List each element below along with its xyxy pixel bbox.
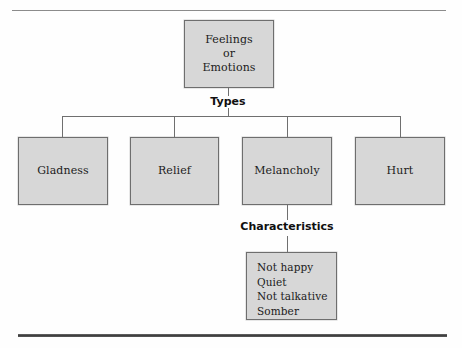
root-line-2: or <box>223 47 235 61</box>
edge-label-types: Types <box>178 96 278 108</box>
characteristic-item-2: Quiet <box>257 275 336 290</box>
characteristic-item-1: Not happy <box>257 260 336 275</box>
hierarchy-diagram: Feelings or Emotions Types Gladness Reli… <box>0 0 462 348</box>
node-relief: Relief <box>130 137 219 205</box>
characteristic-item-3: Not talkative <box>257 289 336 304</box>
node-melancholy: Melancholy <box>242 137 332 205</box>
node-gladness-label: Gladness <box>37 164 89 178</box>
node-hurt: Hurt <box>355 137 445 205</box>
node-relief-label: Relief <box>158 164 191 178</box>
connector-drop-hurt <box>400 116 401 137</box>
node-melancholy-label: Melancholy <box>254 164 320 178</box>
top-divider-rule <box>12 10 446 11</box>
connector-horizontal-bus <box>62 116 401 117</box>
connector-characteristics-to-detail <box>287 236 288 252</box>
bottom-divider-rule <box>18 334 447 337</box>
node-feelings-or-emotions: Feelings or Emotions <box>184 20 274 88</box>
root-line-3: Emotions <box>202 61 255 75</box>
node-gladness: Gladness <box>18 137 108 205</box>
edge-label-characteristics: Characteristics <box>222 220 352 234</box>
connector-drop-relief <box>174 116 175 137</box>
connector-melancholy-to-characteristics <box>287 205 288 220</box>
root-line-1: Feelings <box>205 33 253 47</box>
connector-drop-melancholy <box>287 116 288 137</box>
connector-drop-gladness <box>62 116 63 137</box>
node-melancholy-characteristics: Not happy Quiet Not talkative Somber <box>246 252 337 320</box>
characteristic-item-4: Somber <box>257 304 336 319</box>
node-hurt-label: Hurt <box>387 164 414 178</box>
